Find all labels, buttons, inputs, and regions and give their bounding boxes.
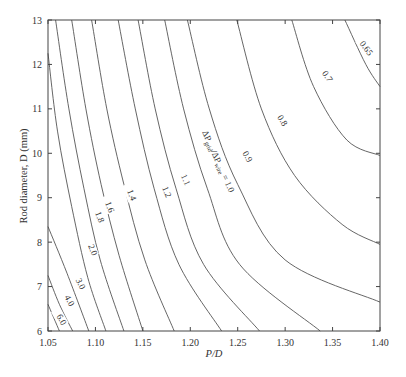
contour-lines <box>48 20 380 331</box>
contour-label-1.4: 1.4 <box>125 188 138 202</box>
contour-labels: 6.04.03.02.01.81.61.41.21.10.90.80.70.65… <box>51 36 375 328</box>
x-tick-label: 1.20 <box>182 337 200 348</box>
y-axis-label-text: Rod diameter, D (mm) <box>18 128 30 224</box>
contour-line-2.0 <box>48 53 106 331</box>
y-tick-label: 13 <box>32 15 42 26</box>
x-tick-label: 1.25 <box>229 337 247 348</box>
y-tick-label: 9 <box>37 192 42 203</box>
x-axis-ticks: 1.051.101.151.201.251.301.351.40 <box>39 20 389 348</box>
x-tick-label: 1.30 <box>276 337 294 348</box>
plot-frame <box>48 20 380 331</box>
svg-text:ΔPgrid/ΔPwire = 1.0: ΔPgrid/ΔPwire = 1.0 <box>199 129 236 195</box>
contour-line-0.65 <box>345 20 380 87</box>
y-tick-label: 10 <box>32 148 42 159</box>
contour-label-1.6: 1.6 <box>103 200 116 214</box>
contour-chart: 6.04.03.02.01.81.61.41.21.10.90.80.70.65… <box>0 0 406 377</box>
contour-line-0.8 <box>237 20 380 244</box>
x-axis-label: P/D <box>205 348 223 359</box>
contour-label-1.8: 1.8 <box>93 210 106 224</box>
x-tick-label: 1.35 <box>324 337 342 348</box>
x-tick-label: 1.15 <box>134 337 152 348</box>
contour-line-1.2 <box>118 20 221 331</box>
contour-label-1.1: 1.1 <box>179 173 193 187</box>
y-tick-label: 7 <box>37 281 42 292</box>
y-tick-label: 11 <box>32 103 42 114</box>
y-tick-label: 8 <box>37 237 42 248</box>
y-tick-label: 6 <box>37 326 42 337</box>
x-tick-label: 1.40 <box>371 337 389 348</box>
y-tick-label: 12 <box>32 59 42 70</box>
contour-label-1.2: 1.2 <box>160 185 173 199</box>
main-contour-label: ΔPgrid/ΔPwire = 1.0 <box>198 127 246 215</box>
contour-label-2.0: 2.0 <box>86 243 100 258</box>
x-tick-label: 1.10 <box>87 337 105 348</box>
x-tick-label: 1.05 <box>39 337 57 348</box>
y-axis-label: Rod diameter, D (mm) <box>18 128 30 224</box>
contour-line-1.1 <box>138 20 259 331</box>
contour-line-1.4 <box>92 20 175 331</box>
contour-label-0.65: 0.65 <box>358 39 376 58</box>
